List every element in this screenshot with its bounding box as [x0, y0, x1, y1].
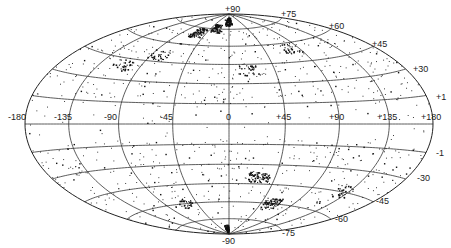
lon-label-45: +45	[276, 112, 291, 122]
lon-label-90: +90	[329, 112, 344, 122]
lat-label--45: -45	[376, 196, 389, 206]
lat-label-60: +60	[329, 21, 344, 31]
lat-label-30: +30	[413, 64, 428, 74]
lat-label-90: +90	[225, 4, 240, 14]
lon-label--45: -45	[160, 112, 173, 122]
lon-label-135: +135	[377, 112, 397, 122]
lon-label--135: -135	[54, 112, 72, 122]
lon-label-0: 0	[226, 112, 231, 122]
lat-label--15: -1	[436, 148, 444, 158]
sky-map-chart: -180 -135 -90 -45 0 +45 +90 +135 +180 +9…	[0, 0, 451, 248]
lon-label-180: +180	[421, 112, 441, 122]
lat-label--90: -90	[222, 236, 235, 246]
axis-labels: -180 -135 -90 -45 0 +45 +90 +135 +180 +9…	[8, 4, 446, 246]
lat-label-15: +1	[436, 92, 446, 102]
lat-label--30: -30	[417, 173, 430, 183]
lon-label--180: -180	[8, 112, 26, 122]
lat-label-45: +45	[372, 39, 387, 49]
lon-label--90: -90	[104, 112, 117, 122]
lat-label--60: -60	[335, 214, 348, 224]
lat-label--75: -75	[282, 228, 295, 238]
lat-label-75: +75	[281, 9, 296, 19]
